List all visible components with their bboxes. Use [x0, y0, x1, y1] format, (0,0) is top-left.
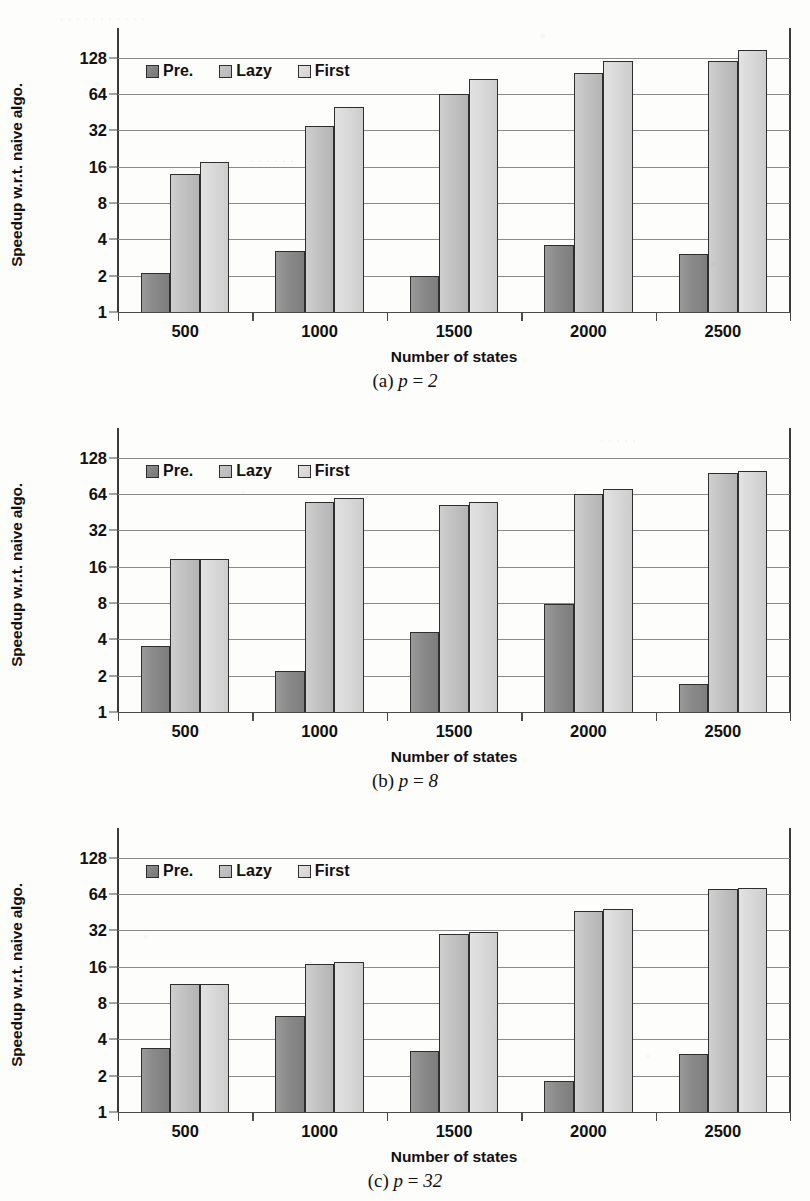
y-tick-label: 32	[89, 521, 107, 540]
legend-label-first: First	[315, 462, 350, 480]
bar-pre-1000	[275, 251, 305, 312]
bar-lazy-2500	[708, 61, 738, 312]
caption-index-a: (a)	[372, 370, 393, 391]
plot-area-b: 1248163264128	[118, 440, 790, 712]
caption-value-a: 2	[428, 370, 438, 391]
caption-eq-a: =	[413, 370, 424, 391]
x-tick-label: 2000	[521, 1122, 655, 1141]
dark-gray-square-icon	[146, 465, 159, 478]
bar-pre-2000	[544, 245, 574, 312]
bar-lazy-2000	[574, 494, 604, 712]
bar-group-500	[118, 440, 252, 712]
bar-first-2000	[603, 909, 633, 1112]
bar-first-1000	[334, 107, 364, 312]
bar-group-1500	[387, 40, 521, 312]
y-tick-label: 128	[79, 848, 107, 867]
x-tick-label: 2500	[656, 322, 790, 341]
x-tick-label: 500	[118, 1122, 252, 1141]
x-tick-label: 2000	[521, 322, 655, 341]
dark-gray-square-icon	[146, 65, 159, 78]
legend-a: Pre. Lazy First	[146, 62, 350, 80]
legend-item-first: First	[298, 62, 350, 80]
y-tick-label: 8	[98, 594, 107, 613]
caption-b: (b) p = 8	[0, 770, 810, 792]
plot-area-a: 1248163264128	[118, 40, 790, 312]
caption-eq-c: =	[408, 1170, 419, 1191]
legend-label-first: First	[315, 862, 350, 880]
y-tick-label: 2	[98, 1066, 107, 1085]
dark-gray-square-icon	[146, 865, 159, 878]
y-tick-mark	[109, 1039, 118, 1040]
bar-groups-b	[118, 440, 790, 712]
bar-first-2000	[603, 489, 633, 712]
y-axis-title: Speedup w.r.t. naive algo.	[4, 840, 30, 1110]
x-tick-label: 1000	[252, 1122, 386, 1141]
y-tick-label: 4	[98, 230, 107, 249]
y-tick-label: 4	[98, 630, 107, 649]
bar-lazy-500	[170, 984, 200, 1112]
y-tick-mark	[109, 857, 118, 858]
x-tick-marks-c	[118, 1112, 790, 1122]
y-tick-mark	[109, 675, 118, 676]
bar-pre-500	[141, 1048, 171, 1112]
bar-group-1000	[252, 40, 386, 312]
y-tick-mark	[109, 94, 118, 95]
light-gray-square-icon	[298, 865, 311, 878]
caption-var-c: p	[394, 1170, 404, 1191]
chart-panel-a: Speedup w.r.t. naive algo. 1248163264128…	[0, 0, 810, 400]
y-tick-label: 1	[98, 703, 107, 722]
y-tick-mark	[109, 494, 118, 495]
y-tick-mark	[109, 603, 118, 604]
x-tick-mark	[790, 1112, 791, 1121]
x-tick-marks-b	[118, 712, 790, 722]
y-tick-label: 4	[98, 1030, 107, 1049]
bar-pre-500	[141, 646, 171, 712]
y-axis-title: Speedup w.r.t. naive algo.	[4, 440, 30, 710]
caption-index-c: (c)	[368, 1170, 389, 1191]
x-tick-labels-b: 5001000150020002500	[118, 722, 790, 741]
bar-first-500	[200, 162, 230, 312]
y-tick-label: 16	[89, 157, 107, 176]
y-tick-mark	[109, 57, 118, 58]
y-tick-label: 128	[79, 48, 107, 67]
y-tick-label: 2	[98, 666, 107, 685]
x-tick-mark	[790, 312, 791, 321]
x-tick-label: 1500	[387, 322, 521, 341]
caption-var-a: p	[398, 370, 408, 391]
y-tick-mark	[109, 166, 118, 167]
caption-var-b: p	[399, 770, 409, 791]
bar-group-500	[118, 40, 252, 312]
light-gray-square-icon	[298, 465, 311, 478]
x-tick-label: 500	[118, 722, 252, 741]
y-tick-mark	[109, 239, 118, 240]
y-tick-mark	[109, 930, 118, 931]
y-tick-mark	[109, 530, 118, 531]
y-tick-mark	[109, 203, 118, 204]
x-tick-label: 2500	[656, 1122, 790, 1141]
bar-lazy-2000	[574, 73, 604, 312]
y-tick-mark	[109, 275, 118, 276]
bar-pre-1000	[275, 671, 305, 712]
x-tick-mark	[118, 1112, 119, 1121]
x-tick-label: 1500	[387, 1122, 521, 1141]
x-tick-mark	[521, 1112, 522, 1121]
legend-item-pre: Pre.	[146, 862, 193, 880]
caption-value-b: 8	[429, 770, 439, 791]
x-tick-mark	[521, 312, 522, 321]
bar-groups-c	[118, 840, 790, 1112]
legend-label-lazy: Lazy	[236, 62, 272, 80]
x-tick-mark	[252, 312, 253, 321]
bar-pre-1500	[410, 276, 440, 312]
bar-group-1000	[252, 440, 386, 712]
x-tick-mark	[252, 1112, 253, 1121]
legend-c: Pre. Lazy First	[146, 862, 350, 880]
legend-item-lazy: Lazy	[219, 62, 272, 80]
bar-lazy-2500	[708, 473, 738, 712]
bar-first-2000	[603, 61, 633, 312]
y-tick-mark	[109, 1003, 118, 1004]
light-gray-square-icon	[298, 65, 311, 78]
legend-label-first: First	[315, 62, 350, 80]
bar-group-500	[118, 840, 252, 1112]
bar-lazy-1500	[439, 94, 469, 312]
bar-lazy-1000	[305, 126, 335, 312]
